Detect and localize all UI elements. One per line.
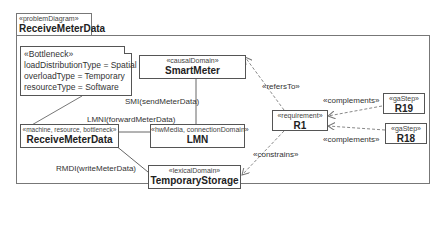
note-line: overloadType = Temporary (24, 71, 128, 82)
node-stereotype: «hwMedia, connectionDomain» (151, 125, 244, 134)
bottleneck-note[interactable]: «Bottleneck» loadDistributionType = Spat… (20, 46, 132, 96)
edge-label-complements-r18: «complements» (323, 135, 379, 145)
node-name: SmartMeter (140, 65, 245, 77)
node-stereotype: «causalDomain» (140, 56, 245, 65)
note-anchor-line (30, 96, 82, 126)
node-temporary-storage[interactable]: «lexicalDomain» TemporaryStorage (148, 165, 241, 189)
node-r18[interactable]: «gaStep» R18 (385, 123, 427, 144)
node-stereotype: «machine, resource, bottleneck» (21, 125, 118, 134)
edge-label-lmni: LMNI(forwardMeterData) (87, 115, 175, 125)
node-receive-meter-data[interactable]: «machine, resource, bottleneck» ReceiveM… (20, 124, 119, 148)
node-name: TemporaryStorage (149, 175, 240, 187)
node-stereotype: «requirement» (273, 111, 327, 120)
edge-label-smi: SMI(sendMeterData) (125, 97, 199, 107)
note-line: loadDistributionType = Spatial (24, 60, 128, 71)
edge-label-complements-r19: «complements» (323, 96, 379, 106)
node-lmn[interactable]: «hwMedia, connectionDomain» LMN (150, 124, 245, 148)
node-r19[interactable]: «gaStep» R19 (383, 93, 425, 114)
node-r1[interactable]: «requirement» R1 (272, 110, 328, 131)
node-stereotype: «gaStep» (386, 124, 426, 133)
node-stereotype: «gaStep» (384, 94, 424, 103)
note-fold-corner (124, 46, 132, 54)
node-name: R19 (384, 103, 424, 115)
node-name: R1 (273, 120, 327, 132)
node-smart-meter[interactable]: «causalDomain» SmartMeter (139, 55, 246, 79)
node-name: R18 (386, 133, 426, 145)
note-line: resourceType = Software (24, 82, 128, 93)
edge-label-rmdi: RMDI(writeMeterData) (56, 164, 136, 174)
complements-r18-connector (328, 126, 385, 130)
note-line: «Bottleneck» (24, 49, 128, 60)
node-name: ReceiveMeterData (21, 134, 118, 146)
edge-label-refers-to: «refersTo» (262, 82, 300, 92)
edge-label-constrains: «constrains» (253, 150, 298, 160)
complements-r19-connector (328, 106, 382, 116)
node-stereotype: «lexicalDomain» (149, 166, 240, 175)
node-name: LMN (151, 134, 244, 146)
